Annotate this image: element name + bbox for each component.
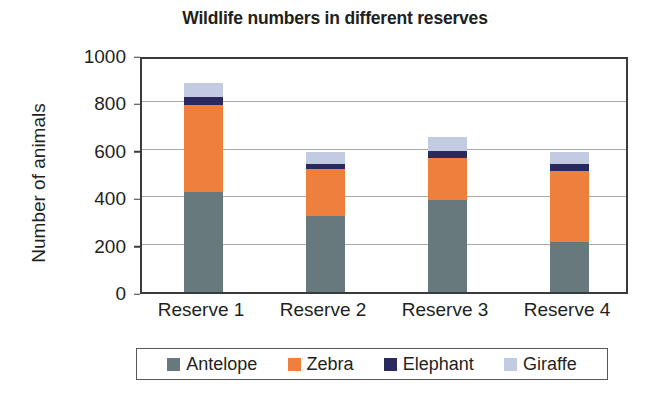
bar-stack[interactable] xyxy=(184,83,223,292)
legend-label-giraffe: Giraffe xyxy=(523,355,577,373)
bar-segment-zebra[interactable] xyxy=(550,171,589,242)
x-tick-label-reserve-1: Reserve 1 xyxy=(158,299,245,321)
bar-segment-giraffe[interactable] xyxy=(184,83,223,96)
legend-label-elephant: Elephant xyxy=(403,355,474,373)
y-tick-label-600: 600 xyxy=(94,141,126,163)
chart-title: Wildlife numbers in different reserves xyxy=(0,8,670,29)
y-tick-label-0: 0 xyxy=(115,283,126,305)
bar-stack[interactable] xyxy=(428,137,467,292)
bar-segment-antelope[interactable] xyxy=(184,192,223,292)
bar-segment-zebra[interactable] xyxy=(184,105,223,193)
x-axis-tick-labels: Reserve 1Reserve 2Reserve 3Reserve 4 xyxy=(140,299,628,327)
bar-segment-giraffe[interactable] xyxy=(306,152,345,164)
bar-stack[interactable] xyxy=(550,152,589,292)
y-tick-label-400: 400 xyxy=(94,188,126,210)
x-tick-label-reserve-2: Reserve 2 xyxy=(280,299,367,321)
bar-segment-giraffe[interactable] xyxy=(428,137,467,151)
y-tick-label-1000: 1000 xyxy=(84,46,126,68)
legend-swatch-elephant xyxy=(384,358,397,371)
plot-area xyxy=(140,57,628,294)
legend-item-elephant[interactable]: Elephant xyxy=(384,355,474,373)
x-tick-label-reserve-4: Reserve 4 xyxy=(524,299,611,321)
legend-swatch-antelope xyxy=(167,358,180,371)
bar-segment-giraffe[interactable] xyxy=(550,152,589,164)
y-tick-label-800: 800 xyxy=(94,93,126,115)
legend-swatch-zebra xyxy=(288,358,301,371)
plot-inner xyxy=(142,59,626,292)
chart-legend: AntelopeZebraElephantGiraffe xyxy=(136,348,608,380)
legend-item-zebra[interactable]: Zebra xyxy=(288,355,354,373)
x-tick-label-reserve-3: Reserve 3 xyxy=(402,299,489,321)
bar-segment-antelope[interactable] xyxy=(306,216,345,292)
bar-segment-elephant[interactable] xyxy=(184,97,223,105)
bar-segment-antelope[interactable] xyxy=(550,242,589,292)
legend-label-antelope: Antelope xyxy=(186,355,257,373)
chart-container: Wildlife numbers in different reserves N… xyxy=(0,0,670,405)
legend-item-antelope[interactable]: Antelope xyxy=(167,355,257,373)
bar-segment-elephant[interactable] xyxy=(550,164,589,171)
y-axis-tick-labels: 02004006008001000 xyxy=(46,57,132,294)
legend-label-zebra: Zebra xyxy=(307,355,354,373)
bar-stack[interactable] xyxy=(306,152,345,292)
legend-item-giraffe[interactable]: Giraffe xyxy=(504,355,577,373)
bar-segment-elephant[interactable] xyxy=(428,151,467,158)
y-tick-label-200: 200 xyxy=(94,236,126,258)
bar-segment-antelope[interactable] xyxy=(428,200,467,292)
bar-segment-zebra[interactable] xyxy=(306,169,345,216)
bar-segment-zebra[interactable] xyxy=(428,158,467,199)
legend-swatch-giraffe xyxy=(504,358,517,371)
